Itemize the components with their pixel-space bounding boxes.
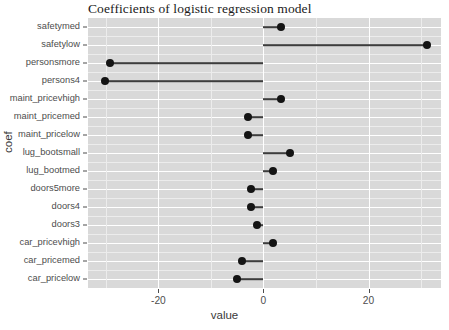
grid-line-horizontal (88, 189, 441, 190)
y-axis-tick-label: doors3 (52, 220, 80, 229)
x-axis-tick-label: -20 (151, 295, 166, 306)
grid-line-vertical-minor (421, 18, 422, 288)
y-axis-tick-label: personsmore (26, 58, 80, 67)
grid-line-vertical (369, 18, 370, 288)
grid-line-horizontal-minor (88, 198, 441, 199)
y-axis-tick-label: car_pricevhigh (20, 238, 80, 247)
grid-line-horizontal (88, 117, 441, 118)
y-axis-tick-label: car_pricelow (28, 274, 80, 283)
data-point[interactable] (277, 23, 285, 31)
data-point[interactable] (286, 149, 294, 157)
y-axis-tick-label: safetymed (37, 22, 80, 31)
data-point[interactable] (277, 95, 285, 103)
grid-line-horizontal (88, 279, 441, 280)
data-point[interactable] (238, 257, 246, 265)
y-axis-tick-label: lug_bootsmall (23, 148, 80, 157)
data-point[interactable] (101, 77, 109, 85)
grid-line-horizontal (88, 261, 441, 262)
y-axis-tick-mark (83, 63, 87, 64)
grid-line-horizontal-minor (88, 252, 441, 253)
y-axis-tick-mark (83, 189, 87, 190)
data-point[interactable] (244, 131, 252, 139)
chart-figure: Coefficients of logistic regression mode… (0, 0, 449, 330)
y-axis-tick-mark (83, 117, 87, 118)
y-axis-tick-mark (83, 243, 87, 244)
grid-line-horizontal-minor (88, 180, 441, 181)
grid-line-horizontal (88, 225, 441, 226)
lollipop-stem (105, 80, 263, 82)
y-axis-tick-mark (83, 279, 87, 280)
data-point[interactable] (423, 41, 431, 49)
y-axis-tick-mark (83, 27, 87, 28)
grid-line-horizontal-minor (88, 90, 441, 91)
grid-line-horizontal (88, 135, 441, 136)
data-point[interactable] (247, 203, 255, 211)
grid-line-horizontal-minor (88, 144, 441, 145)
grid-line-horizontal-minor (88, 36, 441, 37)
y-axis-tick-label: maint_pricevhigh (10, 94, 80, 103)
plot-panel (88, 18, 441, 288)
y-axis-tick-label: doors5more (30, 184, 80, 193)
data-point[interactable] (244, 113, 252, 121)
y-axis-tick-mark (83, 99, 87, 100)
grid-line-vertical-minor (211, 18, 212, 288)
grid-line-horizontal-minor (88, 54, 441, 55)
grid-line-vertical (158, 18, 159, 288)
y-axis-tick-label: maint_pricelow (18, 130, 80, 139)
grid-line-horizontal (88, 207, 441, 208)
y-axis-tick-mark (83, 171, 87, 172)
x-axis-tick-label: 0 (261, 295, 267, 306)
data-point[interactable] (106, 59, 114, 67)
lollipop-stem (110, 62, 264, 64)
data-point[interactable] (233, 275, 241, 283)
chart-title: Coefficients of logistic regression mode… (88, 1, 312, 17)
y-axis-tick-mark (83, 153, 87, 154)
x-axis-tick-mark (263, 289, 264, 293)
data-point[interactable] (269, 239, 277, 247)
grid-line-vertical-minor (316, 18, 317, 288)
grid-line-horizontal-minor (88, 162, 441, 163)
grid-line-horizontal-minor (88, 270, 441, 271)
y-axis-tick-mark (83, 81, 87, 82)
data-point[interactable] (247, 185, 255, 193)
y-axis-title: coef (2, 131, 14, 153)
x-axis-tick-mark (158, 289, 159, 293)
y-axis-tick-label: car_pricemed (24, 256, 80, 265)
y-axis-labels: safetymedsafetylowpersonsmorepersons4mai… (0, 18, 80, 288)
lollipop-stem (263, 44, 427, 46)
y-axis-tick-mark (83, 207, 87, 208)
x-axis-title: value (0, 309, 449, 321)
grid-line-horizontal-minor (88, 234, 441, 235)
data-point[interactable] (253, 221, 261, 229)
data-point[interactable] (269, 167, 277, 175)
grid-line-horizontal-minor (88, 72, 441, 73)
y-axis-tick-label: persons4 (42, 76, 80, 85)
grid-line-horizontal-minor (88, 108, 441, 109)
y-axis-tick-mark (83, 45, 87, 46)
y-axis-tick-label: lug_bootmed (26, 166, 80, 175)
y-axis-tick-mark (83, 135, 87, 136)
y-axis-tick-label: doors4 (52, 202, 80, 211)
y-axis-tick-mark (83, 225, 87, 226)
grid-line-horizontal-minor (88, 126, 441, 127)
y-axis-tick-label: maint_pricemed (14, 112, 80, 121)
grid-line-horizontal-minor (88, 216, 441, 217)
y-axis-tick-label: safetylow (41, 40, 80, 49)
y-axis-tick-mark (83, 261, 87, 262)
x-axis-tick-mark (369, 289, 370, 293)
x-axis-tick-label: 20 (363, 295, 374, 306)
